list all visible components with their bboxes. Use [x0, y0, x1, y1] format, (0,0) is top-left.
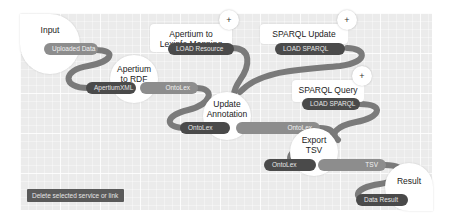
node-title: Input [41, 26, 60, 36]
delete-selected-button[interactable]: Delete selected service or link [27, 189, 124, 202]
add-service-plus-icon[interactable]: + [352, 66, 372, 86]
node-sparql-update[interactable]: SPARQL Update [260, 24, 348, 44]
node-title: Update Annotation [205, 100, 249, 120]
output-port-uploaded-data[interactable]: Uploaded Data [44, 43, 98, 55]
node-title: SPARQL Query [298, 85, 357, 95]
output-port-load-resource[interactable]: LOAD Resource [168, 43, 234, 55]
output-port-ontolex[interactable]: OntoLex [140, 82, 198, 94]
node-title: Export TSV [297, 136, 331, 156]
node-apertium-to-rdf[interactable]: Apertium to RDF [110, 55, 158, 103]
add-service-plus-icon[interactable]: + [219, 10, 239, 30]
input-port-apertiumxml[interactable]: ApertiumXML [86, 82, 136, 94]
node-title: SPARQL Update [272, 29, 335, 39]
output-port-tsv[interactable]: TSV [318, 159, 386, 171]
input-port-ontolex[interactable]: OntoLex [180, 122, 230, 134]
output-port-load-sparql[interactable]: LOAD SPARQL [302, 98, 360, 110]
node-title: Result [397, 177, 421, 187]
input-port-ontolex[interactable]: OntoLex [264, 159, 316, 171]
add-service-plus-icon[interactable]: + [337, 10, 357, 30]
output-port-load-sparql[interactable]: LOAD SPARQL [275, 43, 345, 55]
input-port-data-result[interactable]: Data Result [356, 194, 408, 206]
